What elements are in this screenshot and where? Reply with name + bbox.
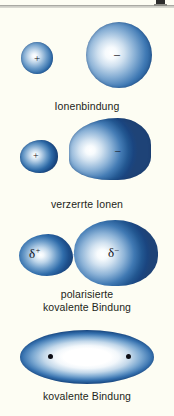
delta-plus-lobe [19, 234, 73, 276]
distorted-cation [20, 140, 58, 173]
page-top-rule-secondary [0, 7, 174, 8]
panel-kovalente-artwork [0, 322, 174, 386]
distorted-cation-charge-label: + [33, 151, 39, 161]
panel-kovalente-bindung: kovalente Bindung [0, 322, 174, 386]
caption-kovalente-bindung: kovalente Bindung [0, 390, 174, 403]
delta-plus-superscript: + [36, 246, 41, 255]
caption-polarisierte-line2: kovalente Bindung [0, 301, 174, 314]
scan-registration-mark-shadow [154, 4, 167, 6]
delta-minus-superscript: – [115, 245, 119, 254]
panel-ionenbindung: + – Ionenbindung [0, 14, 174, 86]
panel-ionenbindung-artwork: + – [0, 14, 174, 86]
delta-plus-label: δ+ [29, 247, 40, 260]
nucleus-dot-right [126, 354, 131, 359]
shared-electron-cloud [20, 330, 154, 384]
distorted-anion-charge-label: – [115, 145, 121, 156]
panel-polarisierte-artwork: δ+ δ– [0, 212, 174, 288]
caption-polarisierte-block: polarisierte kovalente Bindung [0, 288, 174, 313]
anion-charge-label: – [114, 48, 120, 60]
caption-polarisierte-line1: polarisierte [0, 288, 174, 301]
nucleus-dot-left [48, 354, 53, 359]
cation-charge-label: + [34, 53, 40, 64]
caption-ionenbindung: Ionenbindung [0, 100, 174, 113]
panel-verzerrte-ionen-artwork: + – [0, 112, 174, 184]
delta-minus-symbol: δ [108, 245, 114, 260]
distorted-anion [69, 118, 151, 180]
panel-verzerrte-ionen: + – verzerrte Ionen [0, 112, 174, 184]
delta-minus-label: δ– [108, 246, 119, 259]
delta-plus-symbol: δ [29, 246, 35, 261]
panel-polarisierte-kovalente-bindung: δ+ δ– polarisierte kovalente Bindung [0, 212, 174, 288]
bonding-types-figure: + – Ionenbindung + – verzerrte Ionen δ+ … [0, 0, 174, 416]
caption-verzerrte-ionen: verzerrte Ionen [0, 198, 174, 211]
